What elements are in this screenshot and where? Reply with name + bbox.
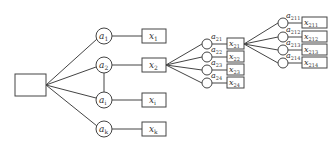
attribute-label: a213	[286, 38, 300, 48]
attribute-label: a212	[286, 25, 300, 35]
attribute-label: a21	[211, 32, 222, 42]
attribute-label: a24	[211, 71, 222, 81]
tree-diagram: a1 a2 ai ak x1 x2 xi xk a21 a22 a23 a24 …	[0, 0, 332, 152]
attribute-label: a22	[211, 45, 222, 55]
root-node	[15, 74, 46, 96]
attribute-label: a214	[286, 51, 300, 61]
attribute-label: a23	[211, 58, 222, 68]
attribute-label: a211	[286, 11, 300, 21]
